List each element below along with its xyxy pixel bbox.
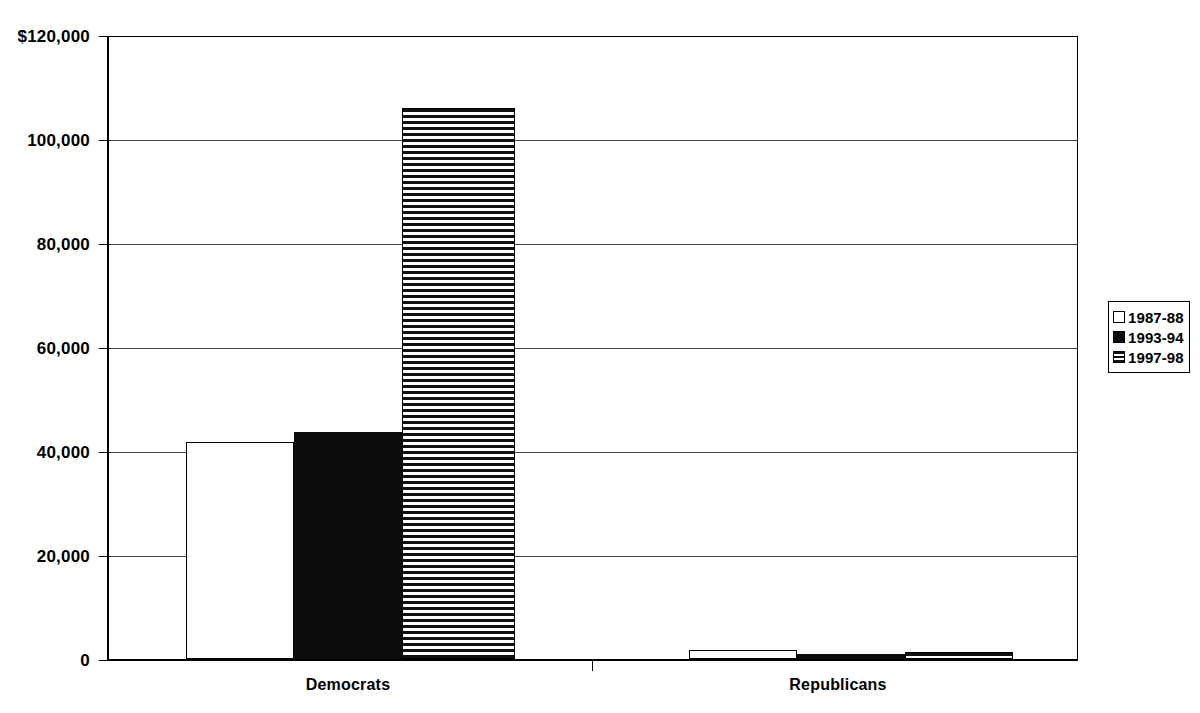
legend-label-1993-94: 1993-94 xyxy=(1128,330,1184,345)
ytick-label-100000: 100,000 xyxy=(0,132,90,149)
legend-item-1993-94[interactable]: 1993-94 xyxy=(1113,327,1184,347)
bar-republicans-1997-98[interactable] xyxy=(905,652,1013,659)
ytick-label-40000: 40,000 xyxy=(0,444,90,461)
ytick-label-20000: 20,000 xyxy=(0,548,90,565)
xtick-mark-center xyxy=(592,661,593,671)
ytick-label-80000: 80,000 xyxy=(0,236,90,253)
legend-label-1997-98: 1997-98 xyxy=(1128,350,1184,365)
plot-area xyxy=(107,36,1078,661)
xcat-label-democrats: Democrats xyxy=(306,676,391,694)
legend-item-1997-98[interactable]: 1997-98 xyxy=(1113,347,1184,367)
legend-swatch-1993-94-icon xyxy=(1113,331,1125,343)
ytick-label-120000: $120,000 xyxy=(0,28,90,45)
bar-democrats-1993-94[interactable] xyxy=(294,432,402,659)
legend-label-1987-88: 1987-88 xyxy=(1128,310,1184,325)
bar-democrats-1997-98[interactable] xyxy=(402,108,515,659)
legend-swatch-1997-98-icon xyxy=(1113,351,1125,363)
bar-democrats-1987-88[interactable] xyxy=(186,442,294,659)
bar-republicans-1987-88[interactable] xyxy=(689,650,797,659)
ytick-label-0: 0 xyxy=(0,652,90,669)
bar-chart-figure: $120,000 100,000 80,000 60,000 40,000 20… xyxy=(0,0,1200,713)
legend-item-1987-88[interactable]: 1987-88 xyxy=(1113,307,1184,327)
gridline-80000 xyxy=(109,244,1077,245)
gridline-100000 xyxy=(109,140,1077,141)
ytick-label-60000: 60,000 xyxy=(0,340,90,357)
chart-legend: 1987-88 1993-94 1997-98 xyxy=(1108,301,1190,373)
bar-republicans-1993-94[interactable] xyxy=(797,654,905,659)
legend-swatch-1987-88-icon xyxy=(1113,311,1125,323)
gridline-60000 xyxy=(109,348,1077,349)
xcat-label-republicans: Republicans xyxy=(789,676,886,694)
